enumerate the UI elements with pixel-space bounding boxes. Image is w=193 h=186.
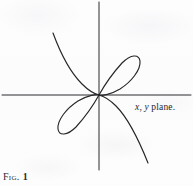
plane-label-suffix: plane. <box>149 102 175 112</box>
curve-upper-right-loop <box>99 56 140 95</box>
plane-axis-label: x, y plane. <box>135 103 175 113</box>
curve-plot <box>0 0 193 186</box>
figure-caption: Fig.1 <box>3 172 28 182</box>
figure-caption-number: 1 <box>23 171 28 182</box>
axes-group <box>2 2 191 170</box>
figure-container: x, y plane. Fig.1 <box>0 0 193 186</box>
figure-caption-label: Fig. <box>3 171 20 182</box>
curve-upper-left-branch <box>53 33 99 95</box>
curve-group <box>53 33 148 163</box>
curve-lower-left-loop <box>58 95 99 134</box>
